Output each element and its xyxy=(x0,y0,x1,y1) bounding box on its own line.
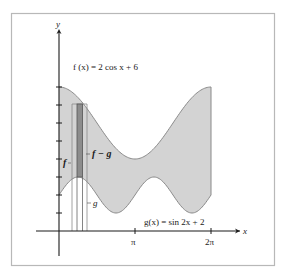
g-label: g xyxy=(93,198,98,208)
figure-frame xyxy=(12,14,275,266)
tick-label-2pi: 2π xyxy=(205,237,215,247)
figure-canvas: y x π 2π f (x) = 2 cos x + 6 g(x) = sin … xyxy=(0,0,281,272)
f-minus-g-strip xyxy=(77,104,83,177)
f-equation: f (x) = 2 cos x + 6 xyxy=(73,62,138,72)
y-axis-label: y xyxy=(55,19,60,29)
f-minus-g-label: f − g xyxy=(92,148,111,159)
x-axis-label: x xyxy=(242,226,247,236)
g-equation: g(x) = sin 2x + 2 xyxy=(144,217,204,227)
tick-label-pi: π xyxy=(131,237,136,247)
